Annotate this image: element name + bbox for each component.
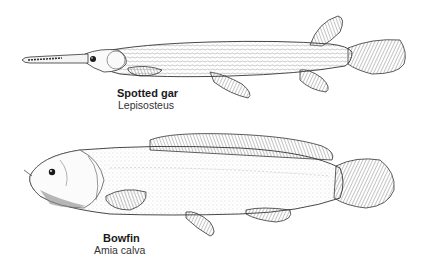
gar-common-name: Spotted gar <box>117 88 178 99</box>
spotted-gar-illustration <box>0 0 422 267</box>
gar-body <box>22 16 405 98</box>
gar-scientific-name: Lepisosteus <box>118 100 174 111</box>
bowfin-scientific-name: Amia calva <box>94 245 145 256</box>
bowfin-common-name: Bowfin <box>103 233 140 244</box>
bowfin-body <box>24 134 394 236</box>
